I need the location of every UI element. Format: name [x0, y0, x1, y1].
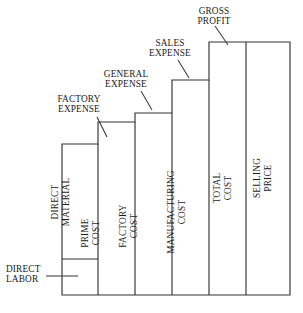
bar-label-direct-material: DIRECT MATERIAL	[50, 137, 74, 267]
bar-label-total-cost: TOTAL COST	[212, 132, 236, 244]
callout-gross-profit: GROSS PROFIT	[186, 6, 242, 27]
callout-direct-labor: DIRECT LABOR	[6, 264, 48, 285]
callout-sales-expense: SALES EXPENSE	[143, 38, 197, 59]
callout-factory-expense: FACTORY EXPENSE	[51, 94, 107, 115]
bar-label-factory-cost: FACTORY COST	[118, 167, 142, 285]
leader-sales-expense	[178, 60, 189, 78]
callout-general-expense: GENERAL EXPENSE	[97, 69, 155, 90]
diagram-canvas: DIRECT LABOR FACTORY EXPENSE GENERAL EXP…	[0, 0, 303, 313]
bar-label-selling-price: SELLING PRICE	[252, 122, 276, 234]
bar-label-prime-cost: PRIME COST	[80, 177, 104, 289]
bar-label-manufacturing-cost: MANUFACTURING COST	[166, 136, 190, 288]
leader-general-expense	[141, 91, 152, 110]
